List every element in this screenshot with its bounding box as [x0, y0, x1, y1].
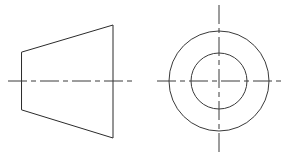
- drawing-sheet: [0, 0, 297, 158]
- technical-drawing-canvas: [0, 0, 297, 158]
- side-view-group: [157, 5, 284, 152]
- front-view-group: [8, 25, 136, 138]
